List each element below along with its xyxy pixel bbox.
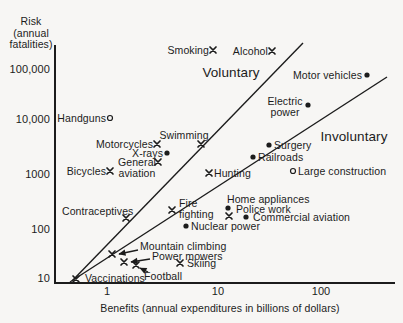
point-label-electric-power: Electricpower [267,96,302,117]
point-label-commercial-aviation: Commercial aviation [253,212,350,223]
marker-electric-power [305,102,310,107]
point-label-surgery: Surgery [274,140,311,151]
point-label-handguns: Handguns [57,113,106,124]
point-label-football: Football [144,271,182,282]
marker-nuclear-power [183,223,188,228]
point-label-railroads: Railroads [258,152,303,163]
risk-benefit-chart: Risk(annualfatalities) Benefits (annual … [0,0,403,323]
point-label-nuclear-power: Nuclear power [191,221,260,232]
marker-surgery [266,142,271,147]
point-label-fire-fighting: Firefighting [179,198,214,219]
marker-bicycles [107,168,113,174]
y-axis-title: Risk(annualfatalities) [9,16,52,51]
marker-football [133,262,139,268]
arrow-power-mowers [131,259,150,262]
marker-police-work [226,213,232,219]
point-label-bicycles: Bicycles [67,166,106,177]
marker-home-appliances [225,205,230,210]
marker-x-rays [164,150,169,155]
marker-motor-vehicles [364,72,369,77]
involuntary-label: Involuntary [320,130,387,144]
point-label-smoking: Smoking [167,45,209,56]
point-label-alcohol: Alcohol [233,46,268,57]
voluntary-label: Voluntary [202,66,259,80]
point-label-general-aviation: Generalaviation [118,157,156,178]
marker-railroads [250,154,255,159]
y-tick-100000: 100,000 [10,64,50,75]
marker-swimming [198,141,204,147]
y-tick-10000: 10,000 [16,114,50,125]
x-tick-100: 100 [312,286,331,297]
point-label-swimming: Swimming [159,130,208,141]
arrow-mountain-climbing [119,250,138,254]
marker-large-construction [291,169,296,174]
involuntary-line [70,77,387,282]
y-tick-100: 100 [31,224,50,235]
point-label-vaccinations: Vaccinations [85,273,145,284]
marker-hunting [206,170,212,176]
marker-power-mowers [121,259,127,265]
x-tick-1: 1 [104,286,110,297]
x-tick-10: 10 [212,286,224,297]
marker-handguns [108,116,113,121]
point-label-skiing: Skiing [187,258,216,269]
marker-smoking [210,47,216,53]
marker-fire-fighting [169,207,175,213]
point-label-large-construction: Large construction [298,166,386,177]
x-axis-title: Benefits (annual expenditures in billion… [100,303,339,314]
y-tick-10: 10 [38,273,50,284]
point-label-hunting: Hunting [214,168,251,179]
point-label-contraceptives: Contraceptives [62,206,133,217]
point-label-motor-vehicles: Motor vehicles [293,70,362,81]
y-tick-1000: 1000 [25,169,50,180]
marker-alcohol [269,48,275,54]
